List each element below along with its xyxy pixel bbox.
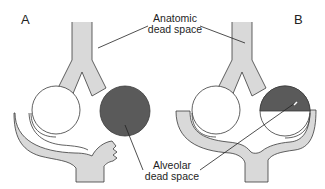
panel-b <box>176 22 316 182</box>
alveolus-a-perfused <box>32 86 80 134</box>
alveolus-a-dead-space <box>100 86 150 136</box>
anatomic-label-line2: dead space <box>143 24 207 35</box>
panel-label-a: A <box>21 12 30 27</box>
airway-a <box>58 22 106 96</box>
panel-label-b: B <box>294 12 303 27</box>
alveolar-dead-space-label: Alveolar dead space <box>141 160 203 182</box>
panel-a <box>14 22 150 182</box>
leader-anatomic-a <box>98 26 148 48</box>
alveolar-label-line2: dead space <box>141 171 203 182</box>
dead-space-diagram: A B Anatomic dead space Alveolar dead sp… <box>0 0 325 189</box>
alveolus-b-perfused <box>192 86 240 134</box>
airway-b <box>218 22 266 96</box>
alveolus-b-dead-half <box>260 86 310 111</box>
anatomic-dead-space-label: Anatomic dead space <box>143 13 207 35</box>
